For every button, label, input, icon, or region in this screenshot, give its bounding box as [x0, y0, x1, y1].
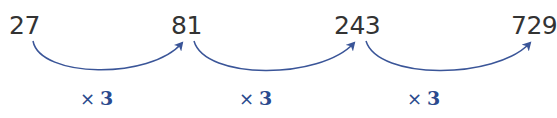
operation-label-3: ×3 — [407, 89, 440, 108]
multiply-icon: × — [407, 88, 422, 109]
multiply-icon: × — [80, 88, 95, 109]
operation-value: 3 — [259, 87, 272, 109]
arrow-2-icon — [194, 41, 354, 71]
operation-value: 3 — [100, 87, 113, 109]
arrow-3-icon — [366, 41, 530, 71]
operation-label-2: ×3 — [239, 89, 272, 108]
operation-value: 3 — [427, 87, 440, 109]
operation-label-1: ×3 — [80, 89, 113, 108]
arrow-1-icon — [33, 41, 182, 70]
multiply-icon: × — [239, 88, 254, 109]
